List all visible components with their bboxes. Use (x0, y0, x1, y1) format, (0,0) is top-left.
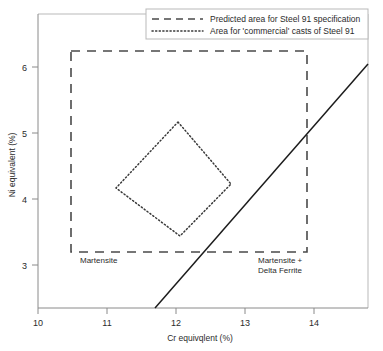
legend-label-commercial: Area for 'commercial' casts of Steel 91 (210, 26, 355, 36)
phase-diagram-chart: 6 5 4 3 10 11 12 13 14 Cr equivqlent (%)… (0, 0, 383, 351)
chart-legend: Predicted area for Steel 91 specificatio… (146, 9, 368, 39)
x-tick-label-10: 10 (33, 318, 43, 328)
y-tick-label-6: 6 (22, 63, 27, 73)
x-axis-tick-labels: 10 11 12 13 14 (33, 318, 319, 328)
y-tick-label-3: 3 (22, 261, 27, 271)
predicted-area-rectangle (71, 51, 307, 252)
y-axis-ticks (32, 67, 38, 265)
region-label-martensite: Martensite (80, 256, 118, 265)
legend-label-predicted: Predicted area for Steel 91 specificatio… (210, 14, 361, 24)
x-tick-label-14: 14 (309, 318, 319, 328)
y-tick-label-4: 4 (22, 195, 27, 205)
region-label-martensite-delta-2: Delta Ferrite (258, 266, 303, 275)
y-axis-title: Ni equivalent (%) (7, 132, 17, 197)
y-tick-label-5: 5 (22, 129, 27, 139)
x-axis-title: Cr equivqlent (%) (167, 333, 233, 343)
y-axis-tick-labels: 6 5 4 3 (22, 63, 27, 271)
x-axis-ticks (38, 308, 314, 314)
commercial-casts-quadrilateral (116, 122, 231, 236)
x-tick-label-13: 13 (240, 318, 250, 328)
region-label-martensite-delta-1: Martensite + (258, 256, 303, 265)
x-tick-label-11: 11 (102, 318, 111, 328)
x-tick-label-12: 12 (171, 318, 181, 328)
